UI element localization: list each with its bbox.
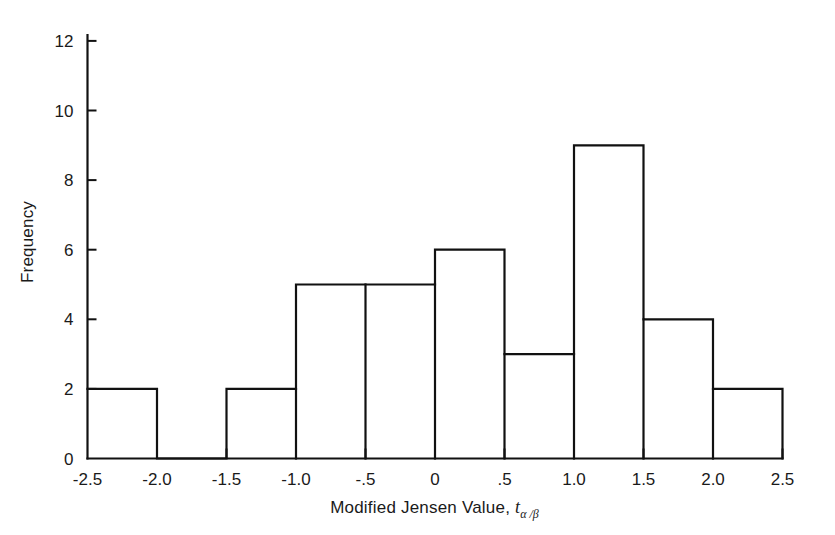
y-tick-label: 12 — [55, 32, 74, 51]
x-tick-label: 2.0 — [701, 470, 725, 489]
histogram-bars — [88, 145, 783, 458]
x-tick-label: -2.0 — [142, 470, 171, 489]
y-axis-ticks: 024681012 — [55, 32, 97, 469]
y-tick-label: 6 — [64, 241, 73, 260]
x-tick-label: .5 — [497, 470, 511, 489]
x-tick-label: -2.5 — [73, 470, 102, 489]
y-tick-label: 0 — [64, 450, 73, 469]
histogram-figure: Frequency Modified Jensen Value, tα /β 0… — [0, 0, 835, 535]
x-tick-label: 1.5 — [632, 470, 656, 489]
x-tick-label: -1.0 — [281, 470, 310, 489]
x-tick-label: 2.5 — [771, 470, 795, 489]
y-tick-label: 8 — [64, 171, 73, 190]
x-tick-label: -.5 — [356, 470, 376, 489]
x-tick-label: -1.5 — [212, 470, 241, 489]
y-tick-label: 2 — [64, 380, 73, 399]
y-tick-label: 4 — [64, 310, 73, 329]
histogram-plot: 024681012 -2.5-2.0-1.5-1.0-.50.51.01.52.… — [0, 0, 835, 535]
x-tick-label: 1.0 — [562, 470, 586, 489]
x-axis-ticks: -2.5-2.0-1.5-1.0-.50.51.01.52.02.5 — [73, 449, 794, 489]
y-tick-label: 10 — [55, 102, 74, 121]
x-tick-label: 0 — [430, 470, 439, 489]
